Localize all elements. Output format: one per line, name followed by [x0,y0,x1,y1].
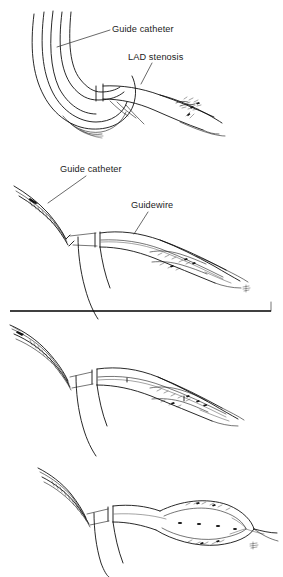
medical-figure: Guide catheter LAD stenosis [0,0,283,577]
catheter-hatching-4 [52,481,86,520]
panel-4-artwork [38,468,278,577]
stenosis-plaque [176,97,201,118]
catheter-hatching-2 [30,201,64,237]
leader-lad-stenosis [141,63,152,84]
stenosis-plaque-2 [150,251,207,274]
panel-divider [10,302,271,311]
leader-guidewire [134,212,148,234]
label-guidewire: Guidewire [131,200,173,210]
label-guide-catheter-2: Guide catheter [60,164,122,174]
label-guide-catheter-1: Guide catheter [112,24,174,34]
balloon-catheter-deflated [98,376,226,417]
inflated-balloon [114,501,264,546]
panel-3-artwork [10,325,244,456]
panel-1-labels: Guide catheter LAD stenosis [57,24,184,84]
label-lad-stenosis: LAD stenosis [128,52,184,62]
leader-guide-catheter-1 [57,30,110,47]
signature-panel-4 [250,542,258,549]
leader-guide-catheter-2 [48,176,86,203]
angioplasty-illustration: Guide catheter LAD stenosis [0,0,283,577]
panel-2-labels: Guide catheter Guidewire [48,164,173,234]
signature-panel-2 [243,285,250,292]
